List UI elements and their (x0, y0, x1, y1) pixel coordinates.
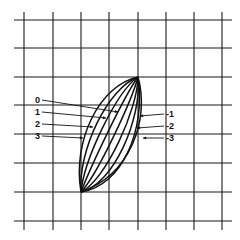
leader-2 (42, 124, 93, 127)
label-curve-1: 1 (35, 107, 40, 117)
leader-neg1 (140, 114, 164, 116)
leader-3 (42, 136, 83, 138)
arrowhead-icon (103, 116, 106, 119)
label-curve-2: 2 (35, 119, 40, 129)
label-curve-neg3: -3 (166, 133, 174, 143)
label-curve-0: 0 (35, 95, 40, 105)
arrowhead-icon (90, 125, 93, 128)
leader-neg2 (137, 126, 164, 128)
label-curve-neg2: -2 (166, 121, 174, 131)
arrowhead-icon (143, 136, 146, 139)
curve-family-diagram: 0 1 2 3 -1 -2 -3 (0, 0, 240, 240)
leader-1 (42, 112, 106, 118)
label-curve-3: 3 (35, 131, 40, 141)
grid (14, 12, 232, 230)
label-curve-neg1: -1 (166, 109, 174, 119)
